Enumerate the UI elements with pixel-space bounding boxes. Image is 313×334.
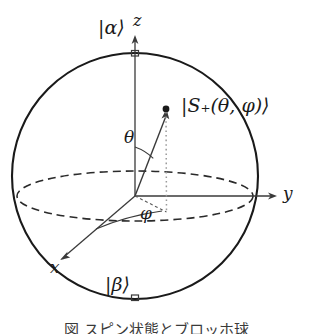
y-axis-label: y: [283, 185, 293, 202]
azimuthal-angle-label: φ: [140, 205, 152, 222]
figure-caption: 図 スピン状態とブロッホ球: [0, 318, 313, 334]
south-pole-state-label: |β⟩: [105, 275, 130, 294]
polar-angle-label: θ: [124, 129, 134, 146]
state-vector-label: |S₊(θ, φ)⟩: [181, 96, 270, 115]
x-axis-line: [65, 196, 135, 256]
state-point-dot: [163, 106, 170, 113]
bloch-sphere-figure: |α⟩ z y x |β⟩ θ φ |S₊(θ, φ)⟩ 図 スピン状態とブロッ…: [0, 0, 313, 334]
x-axis-label: x: [50, 259, 60, 276]
z-axis-label: z: [133, 13, 141, 29]
bloch-sphere-canvas: [0, 0, 313, 334]
projection-drop-line: [166, 112, 167, 212]
north-pole-state-label: |α⟩: [98, 18, 125, 37]
